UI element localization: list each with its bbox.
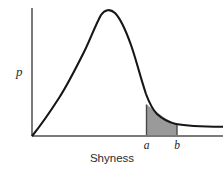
probability-density-figure: p Shyness a b <box>0 0 223 171</box>
y-axis-label: p <box>15 64 23 79</box>
bound-label-a: a <box>144 139 150 151</box>
x-axis-label: Shyness <box>90 152 134 164</box>
bound-label-b: b <box>174 139 180 151</box>
label-layer: p Shyness a b <box>0 0 223 171</box>
